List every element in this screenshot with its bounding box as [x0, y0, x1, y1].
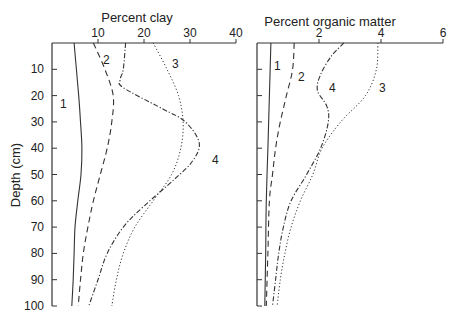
y-tick-label: 70 — [31, 220, 45, 234]
x-tick-label: 4 — [378, 26, 385, 40]
x-tick-label: 2 — [316, 26, 323, 40]
x-tick-label: 30 — [183, 26, 197, 40]
y-tick-label: 20 — [31, 89, 45, 103]
clay-panel-title: Percent clay — [101, 10, 173, 25]
y-tick-label: 10 — [31, 62, 45, 76]
series-line-2 — [78, 43, 113, 306]
y-tick-label: 50 — [31, 168, 45, 182]
series-label-1: 1 — [60, 97, 67, 111]
y-tick-label: 30 — [31, 115, 45, 129]
series-line-3 — [277, 43, 378, 306]
x-tick-label: 6 — [440, 26, 447, 40]
series-label-4: 4 — [329, 81, 336, 95]
y-tick-label: 60 — [31, 194, 45, 208]
y-tick-label: 100 — [24, 299, 44, 313]
series-label-2: 2 — [103, 53, 110, 67]
clay-axes: 10203040102030405060708090100 — [24, 26, 243, 313]
series-label-3: 3 — [379, 81, 386, 95]
soil-profile-chart: Percent clay Percent organic matter Dept… — [0, 0, 456, 323]
x-tick-label: 10 — [91, 26, 105, 40]
series-label-3: 3 — [172, 57, 179, 71]
y-tick-label: 80 — [31, 246, 45, 260]
series-line-1 — [72, 43, 82, 306]
series-line-3 — [112, 43, 183, 306]
y-tick-label: 90 — [31, 273, 45, 287]
series-label-2: 2 — [298, 70, 305, 84]
om-panel-title: Percent organic matter — [264, 14, 396, 29]
om-series: 1234 — [265, 43, 386, 306]
clay-series: 1234 — [60, 43, 219, 306]
series-line-4 — [89, 43, 200, 306]
y-axis-label: Depth (cm) — [8, 143, 23, 207]
series-line-2 — [266, 43, 294, 306]
series-label-1: 1 — [274, 59, 281, 73]
om-axes: 246 — [257, 26, 447, 306]
y-tick-label: 40 — [31, 141, 45, 155]
x-tick-label: 40 — [229, 26, 243, 40]
series-label-4: 4 — [212, 153, 219, 167]
x-tick-label: 20 — [137, 26, 151, 40]
